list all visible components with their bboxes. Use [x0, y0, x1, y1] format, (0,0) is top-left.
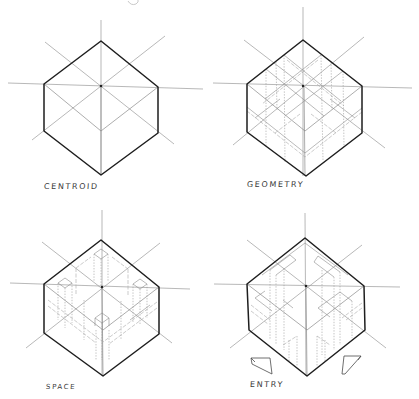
right-entry-marker-icon: [342, 356, 361, 374]
centroid-point: [305, 285, 308, 288]
label-centroid: CENTROID: [44, 182, 99, 191]
axis-guides: [8, 20, 203, 175]
cube-inner-edges: [247, 84, 362, 176]
panel-entry: [214, 213, 400, 376]
panel-geometry: [213, 7, 412, 176]
label-entry: ENTRY: [250, 380, 284, 389]
label-geometry: GEOMETRY: [247, 180, 305, 189]
label-space: SPACE: [46, 383, 77, 391]
isometric-diagram-sheet: CENTROID GEOMETRY SPACE ENTRY: [0, 0, 419, 399]
diagram-canvas: [0, 0, 419, 399]
centroid-point: [101, 286, 103, 288]
left-entry-marker-icon: [251, 358, 272, 374]
panel-centroid: [8, 20, 203, 175]
cube-inner-edges: [44, 84, 158, 175]
cube-inner-edges: [44, 284, 159, 376]
panel-space: [10, 210, 190, 376]
centroid-point: [100, 85, 103, 88]
axis-guides: [213, 7, 412, 176]
axis-guides: [10, 210, 190, 376]
hexagon-outline: [44, 240, 159, 376]
centroid-point: [302, 85, 304, 87]
cropped-title-fragment: [128, 0, 138, 5]
